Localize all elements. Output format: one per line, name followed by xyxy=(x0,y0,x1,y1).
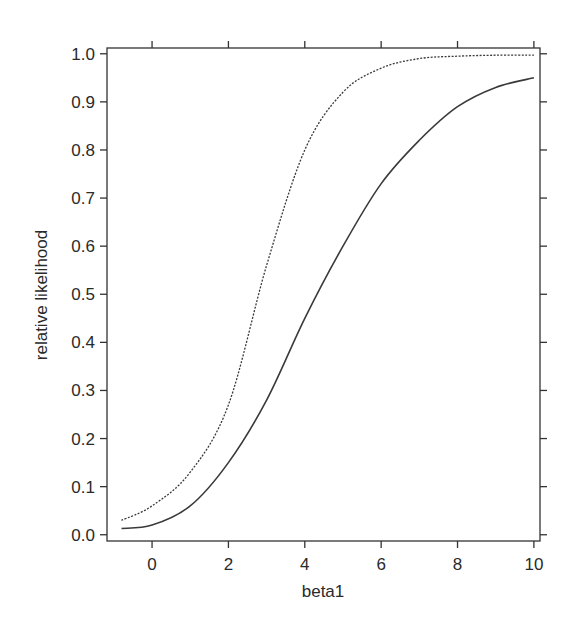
y-tick-label: 1.0 xyxy=(71,45,95,64)
plot-series xyxy=(122,55,534,528)
x-axis-title: beta1 xyxy=(302,582,345,601)
x-axis: 0246810 xyxy=(147,41,543,574)
y-tick-label: 0.6 xyxy=(71,237,95,256)
x-tick-label: 10 xyxy=(524,555,543,574)
x-tick-label: 0 xyxy=(147,555,156,574)
y-axis: 0.00.10.20.30.40.50.60.70.80.91.0 xyxy=(71,45,547,545)
y-tick-label: 0.5 xyxy=(71,285,95,304)
y-tick-label: 0.3 xyxy=(71,381,95,400)
y-tick-label: 0.9 xyxy=(71,93,95,112)
y-tick-label: 0.7 xyxy=(71,189,95,208)
y-tick-label: 0.4 xyxy=(71,333,95,352)
y-tick-label: 0.8 xyxy=(71,141,95,160)
y-tick-label: 0.0 xyxy=(71,526,95,545)
dotted-curve xyxy=(122,55,534,520)
plot-frame xyxy=(107,48,540,541)
y-tick-label: 0.1 xyxy=(71,478,95,497)
solid-curve xyxy=(122,78,534,529)
chart: 0246810 0.00.10.20.30.40.50.60.70.80.91.… xyxy=(0,0,575,631)
x-tick-label: 6 xyxy=(376,555,385,574)
x-tick-label: 8 xyxy=(453,555,462,574)
y-axis-title: relative likelihood xyxy=(32,230,51,360)
x-tick-label: 4 xyxy=(300,555,309,574)
y-tick-label: 0.2 xyxy=(71,430,95,449)
x-tick-label: 2 xyxy=(224,555,233,574)
